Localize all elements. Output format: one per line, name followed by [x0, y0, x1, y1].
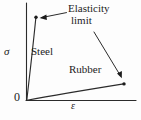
rubber-endpoint-marker: [122, 82, 125, 85]
rubber-curve-label: Rubber: [69, 64, 101, 76]
elasticity-limit-line-1: Elasticity: [68, 2, 110, 14]
arrow-to-steel-endpoint: [40, 13, 67, 20]
steel-endpoint-marker: [34, 16, 37, 19]
steel-curve: [27, 18, 36, 100]
x-axis-label: ε: [71, 101, 75, 112]
steel-curve-label: Steel: [31, 46, 53, 58]
elasticity-limit-line-2: limit: [71, 15, 110, 27]
origin-label: 0: [14, 91, 20, 104]
rubber-curve: [27, 84, 124, 100]
elasticity-limit-annotation: Elasticitylimit: [68, 3, 110, 26]
y-axis-label: σ: [4, 46, 9, 58]
stress-strain-figure: σ ε 0 Steel Rubber Elasticitylimit: [0, 0, 141, 120]
